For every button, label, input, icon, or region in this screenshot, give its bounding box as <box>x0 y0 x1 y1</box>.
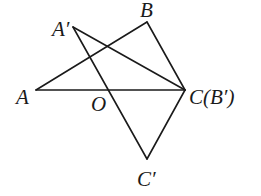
segment-B'C' <box>147 90 185 159</box>
geometry-diagram: B A′ A O C(B′) C′ <box>0 0 261 196</box>
label-A: A <box>14 85 29 109</box>
label-B: B <box>140 0 153 22</box>
segment-A'C' <box>73 27 147 159</box>
label-C-prime: C′ <box>137 167 156 191</box>
label-A-prime: A′ <box>50 17 70 41</box>
label-O: O <box>91 92 106 116</box>
label-C-B-prime: C(B′) <box>189 85 234 109</box>
